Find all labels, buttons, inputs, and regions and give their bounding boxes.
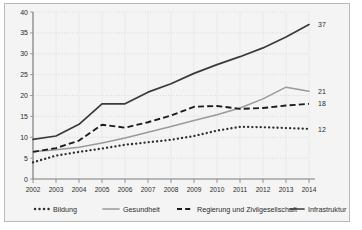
series-end-label-regierung: 18 (318, 100, 326, 107)
x-axis-tick-label: 2014 (302, 186, 317, 193)
x-axis-tick-label: 2013 (279, 186, 294, 193)
x-axis-tick-label: 2004 (72, 186, 87, 193)
x-axis-tick-label: 2009 (187, 186, 202, 193)
chart-frame: 0510152025303540200220032004200520062007… (4, 3, 350, 222)
series-end-label-infrastruktur: 37 (318, 21, 326, 28)
x-axis-tick-label: 2005 (95, 186, 110, 193)
x-axis-tick-label: 2011 (233, 186, 248, 193)
x-axis-tick-label: 2002 (26, 186, 41, 193)
x-axis-tick-label: 2012 (256, 186, 271, 193)
legend-label-regierung: Regierung und Zivilgesellschaft (197, 205, 297, 214)
y-axis-tick-label: 10 (20, 134, 28, 141)
x-axis-tick-label: 2007 (141, 186, 156, 193)
x-axis-tick-label: 2006 (118, 186, 133, 193)
y-axis-tick-label: 40 (20, 9, 28, 16)
y-axis-tick-label: 0 (24, 176, 28, 183)
x-axis-tick-label: 2010 (210, 186, 225, 193)
legend-label-bildung: Bildung (53, 205, 77, 214)
y-axis-tick-label: 25 (20, 71, 28, 78)
legend-label-infrastruktur: Infrastruktur (308, 205, 347, 214)
y-axis-tick-label: 15 (20, 113, 28, 120)
series-end-label-bildung: 12 (318, 126, 326, 133)
y-axis-tick-label: 20 (20, 92, 28, 99)
legend-label-gesundheit: Gesundheit (123, 205, 160, 214)
x-axis-tick-label: 2008 (164, 186, 179, 193)
y-axis-tick-label: 35 (20, 29, 28, 36)
line-chart: 0510152025303540200220032004200520062007… (5, 4, 349, 221)
x-axis-tick-label: 2003 (49, 186, 64, 193)
y-axis-tick-label: 30 (20, 50, 28, 57)
y-axis-tick-label: 5 (24, 155, 28, 162)
series-end-label-gesundheit: 21 (318, 88, 326, 95)
